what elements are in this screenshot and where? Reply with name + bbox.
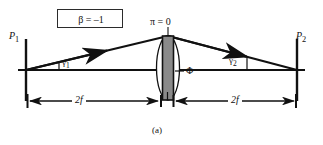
gamma1-label: γ1: [62, 58, 70, 69]
figure-caption: (a): [152, 126, 162, 135]
dimension-right-label: 2f: [228, 95, 242, 105]
gamma2-subscript: 2: [233, 59, 237, 68]
p2-label: P2: [296, 31, 306, 44]
beta-label: β = –1: [58, 10, 124, 29]
p2-subscript: 2: [302, 35, 306, 44]
ray-emergent-arrow: [168, 36, 247, 57]
dimension-left-label: 2f: [72, 95, 86, 105]
lens-slab: [163, 36, 174, 100]
p1-label: P1: [9, 31, 19, 44]
gamma1-subscript: 1: [66, 61, 70, 70]
optical-ray-diagram: β = –1 π = 0 P1 P2 γ1 γ2 Φ 2f 2f (a): [0, 0, 323, 145]
beta-annotation-box: β = –1: [57, 9, 123, 28]
phi-label: Φ: [186, 66, 193, 76]
p1-subscript: 1: [15, 35, 19, 44]
gamma2-label: γ2: [229, 56, 237, 67]
pi-label: π = 0: [150, 17, 171, 27]
